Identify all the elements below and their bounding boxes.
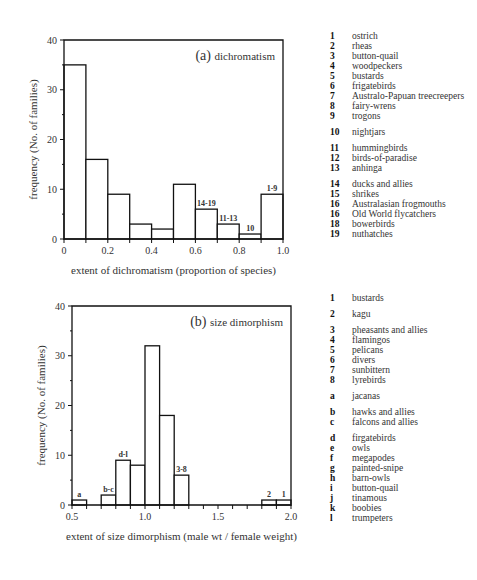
y-tick-label: 0: [60, 500, 65, 511]
legend-key: 5: [330, 71, 352, 81]
legend-entry: 19nuthatches: [330, 229, 464, 239]
legend-label: birds-of-paradise: [352, 153, 417, 163]
legend-entry: 4flamingos: [330, 335, 427, 345]
histogram-bar: [160, 415, 175, 505]
legend-label: kagu: [352, 309, 370, 319]
legend-entry: jtinamous: [330, 493, 427, 503]
legend-label: pelicans: [352, 345, 383, 355]
histogram-bar: [217, 224, 239, 239]
y-tick-label: 30: [47, 84, 57, 95]
histogram-bar: [130, 465, 145, 505]
legend-key: 1: [330, 31, 352, 41]
legend-entry: cfalcons and allies: [330, 417, 427, 427]
legend-label: hawks and allies: [352, 407, 415, 417]
legend-dichromatism: 1ostrich2rheas3button-quail4woodpeckers5…: [330, 31, 464, 239]
legend-label: divers: [352, 355, 375, 365]
bar-annotation: 3-8: [176, 465, 187, 474]
legend-entry: eowls: [330, 443, 427, 453]
x-tick-label: 0.8: [233, 245, 246, 256]
legend-entry: 2rheas: [330, 41, 464, 51]
legend-entry: 3pheasants and allies: [330, 325, 427, 335]
legend-entry: 5bustards: [330, 71, 464, 81]
x-tick-label: 0.6: [189, 245, 202, 256]
histogram-bar: [174, 475, 189, 505]
legend-key: h: [330, 473, 352, 483]
panel-title: (b) size dimorphism: [190, 314, 283, 330]
legend-entry: ibutton-quail: [330, 483, 427, 493]
legend-label: megapodes: [352, 453, 395, 463]
legend-label: boobies: [352, 503, 382, 513]
legend-key: 11: [330, 143, 352, 153]
legend-key: 4: [330, 61, 352, 71]
x-tick-label: 0.4: [145, 245, 158, 256]
legend-key: 19: [330, 229, 352, 239]
legend-label: tinamous: [352, 493, 387, 503]
legend-key: 2: [330, 309, 352, 319]
legend-entry: 16Old World flycatchers: [330, 209, 464, 219]
x-tick-label: 0.5: [66, 511, 79, 522]
histogram-bar: [195, 209, 217, 239]
legend-label: painted-snipe: [352, 463, 403, 473]
legend-entry: 6divers: [330, 355, 427, 365]
x-tick-label: 1.5: [212, 511, 225, 522]
legend-label: button-quail: [352, 483, 398, 493]
legend-key: l: [330, 513, 352, 523]
x-tick-label: 0: [62, 245, 67, 256]
y-tick-label: 20: [47, 134, 57, 145]
legend-key: j: [330, 493, 352, 503]
histogram-bar: [152, 229, 174, 239]
histogram-bar: [72, 500, 87, 505]
legend-label: anhinga: [352, 163, 382, 173]
legend-entry: 4woodpeckers: [330, 61, 464, 71]
legend-label: lyrebirds: [352, 375, 386, 385]
legend-entry: ltrumpeters: [330, 513, 427, 523]
legend-label: rheas: [352, 41, 372, 51]
histogram-bar: [261, 194, 283, 239]
legend-label: flamingos: [352, 335, 390, 345]
chart-dichromatism: 14-1911-13101-901020304000.20.40.60.81.0…: [0, 0, 320, 280]
legend-label: fairy-wrens: [352, 101, 396, 111]
legend-entry: 2kagu: [330, 309, 427, 319]
legend-entry: 14ducks and allies: [330, 179, 464, 189]
legend-label: ducks and allies: [352, 179, 413, 189]
legend-entry: ajacanas: [330, 391, 427, 401]
x-axis-label: extent of size dimorphism (male wt / fem…: [66, 530, 297, 543]
legend-key: 9: [330, 111, 352, 121]
histogram-bar: [86, 159, 108, 239]
legend-label: sunbittern: [352, 365, 390, 375]
legend-key: 7: [330, 365, 352, 375]
y-tick-label: 10: [55, 450, 65, 461]
histogram-bar: [101, 495, 116, 505]
legend-entry: 10nightjars: [330, 127, 464, 137]
bar-annotation: 1: [282, 490, 286, 499]
legend-key: 6: [330, 355, 352, 365]
legend-key: 2: [330, 41, 352, 51]
y-tick-label: 0: [52, 234, 57, 245]
histogram-bar: [108, 194, 130, 239]
y-tick-label: 40: [55, 301, 65, 312]
x-tick-label: 2.0: [285, 511, 298, 522]
legend-key: 16: [330, 199, 352, 209]
histogram-bar: [145, 346, 160, 505]
legend-key: 14: [330, 179, 352, 189]
legend-key: 5: [330, 345, 352, 355]
histogram-bar: [239, 234, 261, 239]
bar-annotation: 10: [246, 224, 254, 233]
y-tick-label: 30: [55, 350, 65, 361]
legend-key: 16: [330, 209, 352, 219]
bar-annotation: d-l: [118, 450, 128, 459]
legend-label: trumpeters: [352, 513, 393, 523]
legend-entry: 7sunbittern: [330, 365, 427, 375]
histogram-bar: [262, 500, 277, 505]
legend-key: 10: [330, 127, 352, 137]
legend-label: falcons and allies: [352, 417, 418, 427]
legend-entry: 5pelicans: [330, 345, 427, 355]
legend-entry: 15shrikes: [330, 189, 464, 199]
legend-label: ostrich: [352, 31, 378, 41]
legend-label: frigatebirds: [352, 81, 396, 91]
y-tick-label: 10: [47, 184, 57, 195]
bar-annotation: 14-19: [197, 199, 216, 208]
legend-entry: dfirgatebirds: [330, 433, 427, 443]
legend-entry: 9trogons: [330, 111, 464, 121]
legend-entry: 3button-quail: [330, 51, 464, 61]
